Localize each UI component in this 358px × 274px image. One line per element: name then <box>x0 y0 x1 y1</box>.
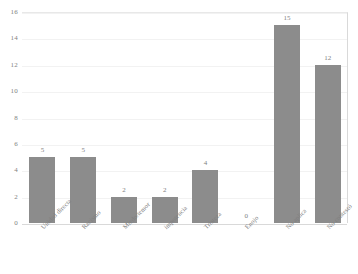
y-axis-tick-label: 2 <box>14 193 18 200</box>
x-axis-tick: No aplica <box>267 224 308 274</box>
bar-value-label: 0 <box>244 213 248 220</box>
bar-value-label: 2 <box>163 187 167 194</box>
y-axis-tick-label: 0 <box>14 220 18 227</box>
bar-value-label: 4 <box>204 160 208 167</box>
x-axis-tick: Miedo/temor <box>104 224 145 274</box>
bar-value-label: 12 <box>324 55 331 62</box>
bar-chart: 0246810121416 5522401512 Unidad directaR… <box>0 0 358 274</box>
x-axis-tick: Enojo <box>226 224 267 274</box>
x-axis-tick: No contestó <box>307 224 348 274</box>
bar-group[interactable]: 5 <box>63 12 104 223</box>
x-axis-tick: Tristeza <box>185 224 226 274</box>
bar-group[interactable]: 5 <box>22 12 63 223</box>
x-axis-tick: impotencia <box>144 224 185 274</box>
bar-group[interactable]: 0 <box>226 12 267 223</box>
y-axis-tick-label: 12 <box>11 61 18 68</box>
x-axis-tick: Unidad directa <box>22 224 63 274</box>
bar-group[interactable]: 4 <box>185 12 226 223</box>
y-axis-tick-label: 10 <box>11 88 18 95</box>
bar-group[interactable]: 12 <box>307 12 348 223</box>
x-axis-tick: Racismo <box>63 224 104 274</box>
bar-value-label: 15 <box>283 15 290 22</box>
y-axis-tick-label: 16 <box>11 9 18 16</box>
bar-value-label: 2 <box>122 187 126 194</box>
y-axis-tick-label: 8 <box>14 114 18 121</box>
bar[interactable] <box>315 65 341 223</box>
y-axis-tick-label: 14 <box>11 35 18 42</box>
bar-group[interactable]: 2 <box>104 12 145 223</box>
bar[interactable] <box>274 25 300 223</box>
y-axis: 0246810121416 <box>0 12 22 223</box>
bar-value-label: 5 <box>81 147 85 154</box>
bar-group[interactable]: 15 <box>267 12 308 223</box>
y-axis-tick-label: 6 <box>14 140 18 147</box>
y-axis-tick-label: 4 <box>14 167 18 174</box>
bar-group[interactable]: 2 <box>144 12 185 223</box>
bar-value-label: 5 <box>41 147 45 154</box>
x-axis: Unidad directaRacismoMiedo/temorimpotenc… <box>22 224 348 274</box>
bars-layer: 5522401512 <box>22 12 348 223</box>
